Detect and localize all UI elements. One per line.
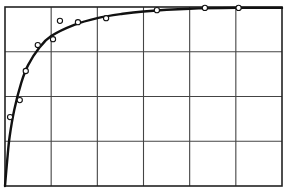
data-points — [7, 5, 241, 119]
data-point-marker — [7, 114, 12, 119]
data-point-marker — [104, 16, 109, 21]
grid-lines — [5, 7, 282, 186]
data-point-marker — [154, 8, 159, 13]
data-point-marker — [50, 37, 55, 42]
data-point-marker — [35, 42, 40, 47]
data-point-marker — [17, 97, 22, 102]
data-point-marker — [75, 20, 80, 25]
data-point-marker — [202, 5, 207, 10]
data-point-marker — [57, 18, 62, 23]
data-point-marker — [236, 5, 241, 10]
chart — [0, 0, 284, 191]
data-point-marker — [23, 68, 28, 73]
